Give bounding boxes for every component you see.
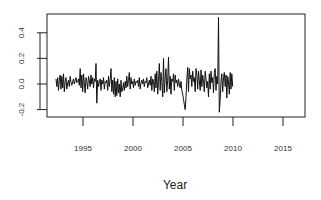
y-axis: -0.20.00.20.4 — [17, 27, 47, 117]
x-axis-title: Year — [163, 178, 187, 192]
line-chart: -0.20.00.20.4 19952000200520102015 Year — [0, 0, 321, 200]
data-series-line — [56, 17, 233, 112]
y-tick-label: 0.2 — [17, 52, 26, 64]
x-tick-label: 2015 — [274, 144, 292, 153]
y-tick-label: 0.0 — [17, 78, 26, 90]
x-axis: 19952000200520102015 — [74, 117, 292, 153]
x-tick-label: 2000 — [124, 144, 142, 153]
x-tick-label: 2005 — [174, 144, 192, 153]
x-tick-label: 2010 — [224, 144, 242, 153]
plot-frame — [47, 14, 305, 117]
y-tick-label: 0.4 — [17, 27, 26, 39]
y-tick-label: -0.2 — [17, 102, 26, 116]
x-tick-label: 1995 — [74, 144, 92, 153]
